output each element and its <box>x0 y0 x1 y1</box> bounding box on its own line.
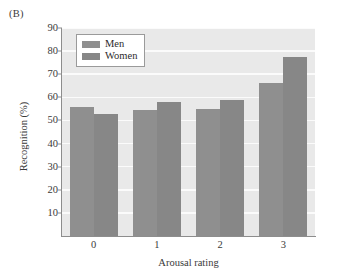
y-tick-label: 10 <box>30 208 58 219</box>
x-tick-label: 3 <box>281 240 286 251</box>
y-tick-label: 70 <box>30 69 58 80</box>
bar-women-3 <box>283 57 307 236</box>
x-tick-label: 0 <box>91 240 96 251</box>
x-tick-label: 1 <box>154 240 159 251</box>
y-axis-label: Recognition (%) <box>18 67 29 207</box>
x-axis-line <box>61 236 316 237</box>
y-tick-label: 90 <box>30 23 58 34</box>
legend-swatch-icon <box>82 41 100 48</box>
legend-item-men: Men <box>82 38 137 50</box>
legend-swatch-icon <box>82 53 100 60</box>
y-tick-mark <box>58 143 62 144</box>
x-tick-label: 2 <box>218 240 223 251</box>
bar-women-1 <box>157 102 181 236</box>
figure-panel-b: (B) Recognition (%) 102030405060708090 0… <box>0 0 339 275</box>
y-tick-mark <box>58 166 62 167</box>
bar-women-2 <box>220 100 244 236</box>
bar-men-2 <box>196 109 220 236</box>
legend-label: Men <box>105 39 124 50</box>
y-tick-label: 80 <box>30 46 58 57</box>
gridline <box>62 28 315 29</box>
y-tick-mark <box>58 28 62 29</box>
panel-label: (B) <box>9 8 24 19</box>
y-tick-label: 60 <box>30 92 58 103</box>
legend-label: Women <box>105 51 137 62</box>
y-tick-mark <box>58 212 62 213</box>
chart-legend: MenWomen <box>76 34 145 67</box>
y-tick-label: 30 <box>30 161 58 172</box>
bar-women-0 <box>94 114 118 236</box>
y-tick-label: 50 <box>30 115 58 126</box>
gridline <box>62 73 315 75</box>
y-tick-mark <box>58 51 62 52</box>
y-tick-mark <box>58 74 62 75</box>
y-tick-mark <box>58 120 62 121</box>
y-tick-label: 20 <box>30 185 58 196</box>
y-tick-mark <box>58 189 62 190</box>
y-tick-label: 40 <box>30 138 58 149</box>
legend-item-women: Women <box>82 50 137 62</box>
y-tick-mark <box>58 97 62 98</box>
bar-men-1 <box>133 110 157 236</box>
x-axis-label: Arousal rating <box>62 257 315 268</box>
bar-men-3 <box>259 83 283 236</box>
y-axis-tick-labels: 102030405060708090 <box>30 0 58 275</box>
bar-men-0 <box>70 107 94 236</box>
